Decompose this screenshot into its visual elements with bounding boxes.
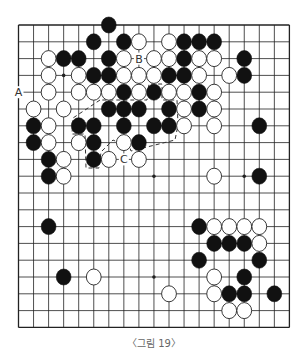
white-stone (147, 67, 162, 83)
black-stone (237, 286, 252, 302)
white-stone (41, 135, 56, 151)
white-stone (41, 118, 56, 134)
black-stone (177, 67, 192, 83)
black-stone (101, 101, 116, 117)
white-stone (71, 84, 86, 100)
white-stone (207, 269, 222, 285)
white-stone (116, 135, 131, 151)
black-stone (207, 235, 222, 251)
figure-caption: 〈그림 19〉 (0, 335, 308, 350)
black-stone (147, 84, 162, 100)
white-stone (132, 67, 147, 83)
black-stone (147, 118, 162, 134)
black-stone (162, 118, 177, 134)
black-stone (237, 67, 252, 83)
black-stone (162, 101, 177, 117)
black-stone (192, 101, 207, 117)
white-stone (252, 235, 267, 251)
black-stone (71, 51, 86, 67)
white-stone (222, 219, 237, 235)
white-stone (71, 135, 86, 151)
black-stone (252, 168, 267, 184)
white-stone (116, 51, 131, 67)
black-stone (252, 118, 267, 134)
white-stone (101, 151, 116, 167)
black-stone (101, 17, 116, 33)
black-stone (41, 219, 56, 235)
white-stone (56, 168, 71, 184)
white-stone (26, 101, 41, 117)
white-stone (177, 84, 192, 100)
black-stone (86, 118, 101, 134)
black-stone (56, 51, 71, 67)
black-stone (192, 252, 207, 268)
white-stone (252, 219, 267, 235)
go-board-diagram: ABC (0, 0, 308, 335)
white-stone (207, 51, 222, 67)
black-stone (41, 151, 56, 167)
white-stone (207, 219, 222, 235)
white-stone (162, 34, 177, 50)
black-stone (86, 67, 101, 83)
white-stone (116, 67, 131, 83)
white-stone (162, 84, 177, 100)
white-stone (237, 303, 252, 319)
black-stone (192, 84, 207, 100)
point-label: A (15, 86, 23, 99)
black-stone (177, 34, 192, 50)
black-stone (237, 269, 252, 285)
white-stone (222, 303, 237, 319)
white-stone (56, 101, 71, 117)
black-stone (207, 34, 222, 50)
white-stone (192, 67, 207, 83)
white-stone (207, 84, 222, 100)
black-stone (132, 101, 147, 117)
black-stone (177, 51, 192, 67)
white-stone (86, 84, 101, 100)
white-stone (162, 51, 177, 67)
black-stone (116, 84, 131, 100)
white-stone (132, 151, 147, 167)
black-stone (237, 235, 252, 251)
white-stone (56, 151, 71, 167)
black-stone (71, 118, 86, 134)
black-stone (56, 269, 71, 285)
star-point-icon (152, 174, 156, 178)
black-stone (237, 51, 252, 67)
black-stone (116, 118, 131, 134)
point-label: C (120, 153, 128, 166)
white-stone (71, 67, 86, 83)
black-stone (192, 219, 207, 235)
white-stone (222, 67, 237, 83)
white-stone (86, 269, 101, 285)
black-stone (101, 51, 116, 67)
white-stone (132, 34, 147, 50)
black-stone (132, 135, 147, 151)
star-point-icon (152, 275, 156, 279)
white-stone (147, 51, 162, 67)
white-stone (207, 101, 222, 117)
black-stone (222, 286, 237, 302)
black-stone (101, 67, 116, 83)
black-stone (26, 135, 41, 151)
star-point-icon (242, 174, 246, 178)
black-stone (86, 34, 101, 50)
white-stone (41, 67, 56, 83)
white-stone (237, 219, 252, 235)
white-stone (207, 286, 222, 302)
white-stone (101, 84, 116, 100)
white-stone (207, 118, 222, 134)
white-stone (207, 168, 222, 184)
black-stone (86, 135, 101, 151)
black-stone (26, 118, 41, 134)
black-stone (41, 168, 56, 184)
black-stone (86, 151, 101, 167)
black-stone (116, 101, 131, 117)
white-stone (132, 84, 147, 100)
point-label: B (135, 53, 143, 66)
white-stone (177, 101, 192, 117)
black-stone (162, 67, 177, 83)
white-stone (41, 51, 56, 67)
white-stone (162, 286, 177, 302)
black-stone (192, 34, 207, 50)
